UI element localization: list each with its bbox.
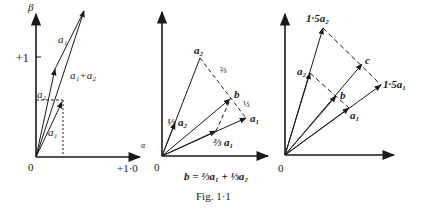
- label-a1-lower: a₁: [48, 127, 57, 138]
- label-b: b: [340, 90, 346, 101]
- vector-a1: [285, 108, 349, 155]
- label-two-thirds: ⅔: [220, 66, 227, 75]
- label-a1-upper: a₁: [58, 34, 67, 45]
- label-a2: a₂: [297, 66, 306, 77]
- label-one-third: ⅓: [243, 100, 250, 109]
- vector-b: [285, 96, 336, 155]
- tick-y-label: +1: [16, 52, 29, 64]
- label-sum: a₁+a₂: [70, 70, 96, 81]
- vector-a2: [285, 73, 310, 155]
- panel-2: [162, 12, 268, 156]
- label-a1: a₁: [350, 110, 359, 121]
- equation: b = ⅔a₁ + ⅓a₂: [184, 170, 248, 182]
- label-a2: a₂: [194, 45, 203, 56]
- label-15a2: 1·5a₂: [306, 13, 329, 24]
- axis-beta-label: β: [28, 2, 33, 13]
- label-two-thirds-a1: ⅔ a₁: [213, 137, 233, 148]
- panel-3: [285, 14, 394, 155]
- label-third-a2: ⅓ a₂: [167, 117, 187, 128]
- tick-x-label: +1·0: [117, 163, 138, 174]
- label-c: c: [365, 55, 370, 66]
- label-b: b: [234, 89, 240, 100]
- origin-label: 0: [278, 163, 284, 174]
- axis-alpha-label: α: [141, 142, 145, 150]
- vector-a2: [36, 69, 55, 157]
- label-a2: a₂: [37, 89, 46, 100]
- label-15a1: 1·5a₁: [383, 79, 406, 90]
- origin-label: 0: [28, 162, 34, 173]
- label-a1: a₁: [250, 113, 259, 124]
- figure-caption: Fig. 1·1: [196, 190, 231, 202]
- origin-label: 0: [154, 162, 160, 173]
